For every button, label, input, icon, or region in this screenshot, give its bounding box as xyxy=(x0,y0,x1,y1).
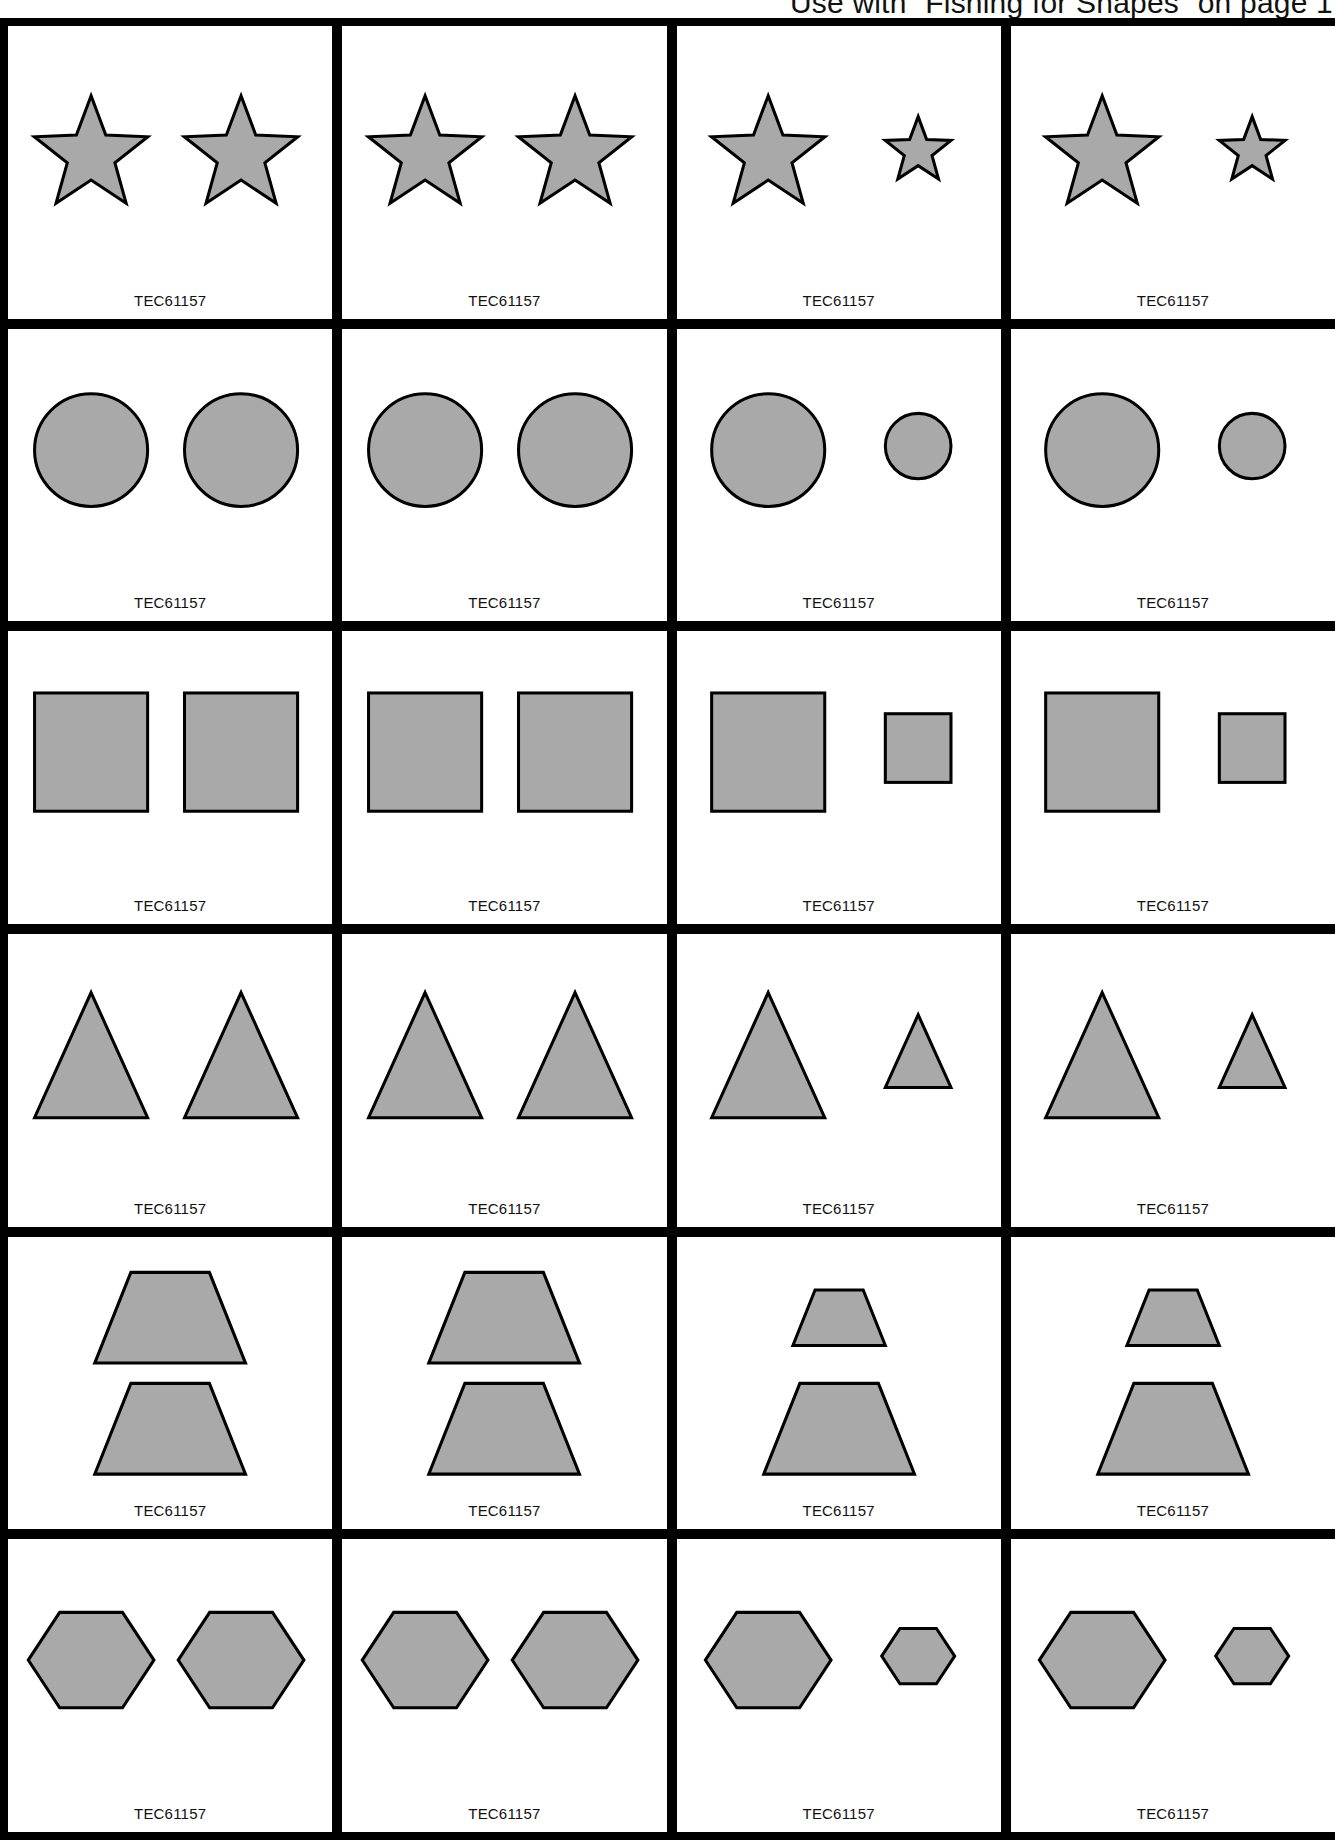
square-icon xyxy=(369,693,482,811)
hexagon-icon xyxy=(363,1613,489,1708)
circle-icon xyxy=(369,393,482,506)
shape-card-trapezoid: TEC61157 xyxy=(342,1237,666,1530)
card-code-label: TEC61157 xyxy=(8,897,332,914)
shape-card-hexagon: TEC61157 xyxy=(342,1539,666,1832)
square-icon xyxy=(1045,693,1158,811)
shape-card-star: TEC61157 xyxy=(677,26,1001,319)
shape-card-star: TEC61157 xyxy=(8,26,332,319)
shape-card-trapezoid: TEC61157 xyxy=(1011,1237,1335,1530)
card-code-label: TEC61157 xyxy=(1011,1502,1335,1519)
triangle-icon xyxy=(519,993,632,1118)
card-code-label: TEC61157 xyxy=(8,292,332,309)
trapezoid-icon xyxy=(429,1383,580,1474)
triangle-icon xyxy=(1045,993,1158,1118)
card-code-label: TEC61157 xyxy=(677,1502,1001,1519)
shape-card-triangle: TEC61157 xyxy=(8,934,332,1227)
shape-card-triangle: TEC61157 xyxy=(677,934,1001,1227)
card-code-label: TEC61157 xyxy=(8,1200,332,1217)
trapezoid-icon xyxy=(95,1383,246,1474)
card-code-label: TEC61157 xyxy=(1011,1200,1335,1217)
triangle-icon xyxy=(185,993,298,1118)
card-code-label: TEC61157 xyxy=(677,1805,1001,1822)
shape-card-hexagon: TEC61157 xyxy=(8,1539,332,1832)
hexagon-icon xyxy=(881,1629,954,1684)
star-icon xyxy=(184,96,297,204)
triangle-icon xyxy=(35,993,148,1118)
shape-card-circle: TEC61157 xyxy=(8,329,332,622)
star-icon xyxy=(885,117,951,179)
card-code-label: TEC61157 xyxy=(1011,594,1335,611)
square-icon xyxy=(711,693,824,811)
card-code-label: TEC61157 xyxy=(1011,897,1335,914)
shape-card-trapezoid: TEC61157 xyxy=(8,1237,332,1530)
circle-icon xyxy=(185,393,298,506)
hexagon-icon xyxy=(1039,1613,1165,1708)
star-icon xyxy=(34,96,147,204)
card-code-label: TEC61157 xyxy=(342,1805,666,1822)
square-icon xyxy=(1219,714,1285,783)
card-code-label: TEC61157 xyxy=(342,897,666,914)
trapezoid-icon xyxy=(429,1272,580,1363)
card-code-label: TEC61157 xyxy=(677,292,1001,309)
trapezoid-icon xyxy=(95,1272,246,1363)
card-code-label: TEC61157 xyxy=(8,1805,332,1822)
hexagon-icon xyxy=(28,1613,154,1708)
card-code-label: TEC61157 xyxy=(342,1200,666,1217)
card-code-label: TEC61157 xyxy=(342,1502,666,1519)
star-icon xyxy=(519,96,632,204)
shape-card-square: TEC61157 xyxy=(8,631,332,924)
square-icon xyxy=(185,693,298,811)
trapezoid-icon xyxy=(792,1290,884,1346)
circle-icon xyxy=(885,413,951,478)
shape-card-square: TEC61157 xyxy=(342,631,666,924)
triangle-icon xyxy=(711,993,824,1118)
square-icon xyxy=(885,714,951,783)
card-code-label: TEC61157 xyxy=(677,897,1001,914)
circle-icon xyxy=(519,393,632,506)
shape-card-hexagon: TEC61157 xyxy=(1011,1539,1335,1832)
triangle-icon xyxy=(369,993,482,1118)
hexagon-icon xyxy=(1215,1629,1288,1684)
shape-card-star: TEC61157 xyxy=(1011,26,1335,319)
card-code-label: TEC61157 xyxy=(677,594,1001,611)
shape-card-trapezoid: TEC61157 xyxy=(677,1237,1001,1530)
trapezoid-icon xyxy=(1097,1383,1248,1474)
shape-card-square: TEC61157 xyxy=(1011,631,1335,924)
circle-icon xyxy=(1045,393,1158,506)
card-code-label: TEC61157 xyxy=(677,1200,1001,1217)
card-code-label: TEC61157 xyxy=(8,1502,332,1519)
page-header-note: Use with “Fishing for Shapes” on page 1 xyxy=(790,0,1333,20)
shape-card-grid: TEC61157TEC61157TEC61157TEC61157TEC61157… xyxy=(0,18,1335,1840)
card-code-label: TEC61157 xyxy=(342,594,666,611)
square-icon xyxy=(519,693,632,811)
shape-card-triangle: TEC61157 xyxy=(342,934,666,1227)
card-code-label: TEC61157 xyxy=(1011,1805,1335,1822)
circle-icon xyxy=(1219,413,1285,478)
star-icon xyxy=(711,96,824,204)
circle-icon xyxy=(35,393,148,506)
shape-card-hexagon: TEC61157 xyxy=(677,1539,1001,1832)
star-icon xyxy=(1219,117,1285,179)
star-icon xyxy=(369,96,482,204)
shape-card-circle: TEC61157 xyxy=(342,329,666,622)
square-icon xyxy=(35,693,148,811)
circle-icon xyxy=(711,393,824,506)
card-code-label: TEC61157 xyxy=(1011,292,1335,309)
shape-card-circle: TEC61157 xyxy=(1011,329,1335,622)
card-code-label: TEC61157 xyxy=(342,292,666,309)
trapezoid-icon xyxy=(763,1383,914,1474)
shape-card-triangle: TEC61157 xyxy=(1011,934,1335,1227)
shape-card-star: TEC61157 xyxy=(342,26,666,319)
hexagon-icon xyxy=(178,1613,304,1708)
triangle-icon xyxy=(1219,1015,1285,1088)
card-code-label: TEC61157 xyxy=(8,594,332,611)
shape-card-circle: TEC61157 xyxy=(677,329,1001,622)
star-icon xyxy=(1045,96,1158,204)
shape-card-square: TEC61157 xyxy=(677,631,1001,924)
triangle-icon xyxy=(885,1015,951,1088)
hexagon-icon xyxy=(705,1613,831,1708)
trapezoid-icon xyxy=(1127,1290,1219,1346)
hexagon-icon xyxy=(512,1613,638,1708)
